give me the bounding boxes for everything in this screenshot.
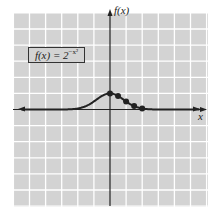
function-label-base: f(x) = 2	[35, 49, 69, 61]
function-label-exponent: −x²	[69, 48, 79, 56]
data-point	[123, 98, 129, 104]
function-graph	[0, 0, 218, 217]
function-label: f(x) = 2−x²	[28, 47, 85, 63]
data-point	[139, 106, 145, 112]
data-point	[115, 93, 121, 99]
data-point	[107, 90, 113, 96]
data-point	[131, 103, 137, 109]
y-axis-label: f(x)	[114, 4, 129, 16]
x-axis-label: x	[198, 110, 203, 122]
